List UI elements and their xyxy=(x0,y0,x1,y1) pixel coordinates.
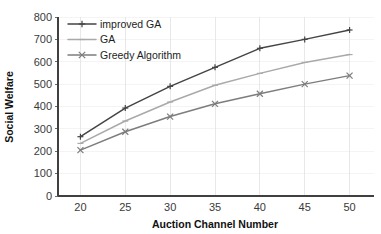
y-tick-label: 800 xyxy=(34,11,52,23)
y-axis-tick-labels: 0100200300400500600700800 xyxy=(34,11,52,202)
data-point-marker xyxy=(302,36,308,42)
social-welfare-line-chart: 0100200300400500600700800 20253035404550… xyxy=(0,0,381,234)
x-tick-label: 30 xyxy=(164,201,176,213)
chart-container: 0100200300400500600700800 20253035404550… xyxy=(0,0,381,234)
x-tick-label: 40 xyxy=(254,201,266,213)
legend-label: Greedy Algorithm xyxy=(100,49,181,61)
data-point-marker xyxy=(212,64,218,70)
y-tick-label: 600 xyxy=(34,56,52,68)
y-tick-label: 200 xyxy=(34,145,52,157)
legend-item-ga: GA xyxy=(68,33,115,45)
x-tick-label: 25 xyxy=(119,201,131,213)
y-axis-title: Social Welfare xyxy=(3,71,15,143)
data-point-marker xyxy=(257,45,263,51)
data-point-marker xyxy=(79,21,85,27)
x-axis-title: Auction Channel Number xyxy=(152,218,278,230)
y-tick-label: 700 xyxy=(34,33,52,45)
legend-item-improved-ga: improved GA xyxy=(68,18,161,30)
x-tick-label: 45 xyxy=(299,201,311,213)
y-tick-label: 500 xyxy=(34,78,52,90)
x-tick-label: 35 xyxy=(209,201,221,213)
y-tick-label: 300 xyxy=(34,123,52,135)
x-tick-label: 20 xyxy=(74,201,86,213)
data-point-marker xyxy=(347,27,353,33)
legend-label: improved GA xyxy=(100,18,161,30)
y-tick-label: 100 xyxy=(34,167,52,179)
x-axis-tick-labels: 20253035404550 xyxy=(74,201,355,213)
x-tick-label: 50 xyxy=(343,201,355,213)
y-tick-label: 400 xyxy=(34,100,52,112)
y-tick-label: 0 xyxy=(46,190,52,202)
legend-item-greedy-algorithm: Greedy Algorithm xyxy=(68,49,181,61)
legend-label: GA xyxy=(100,33,115,45)
